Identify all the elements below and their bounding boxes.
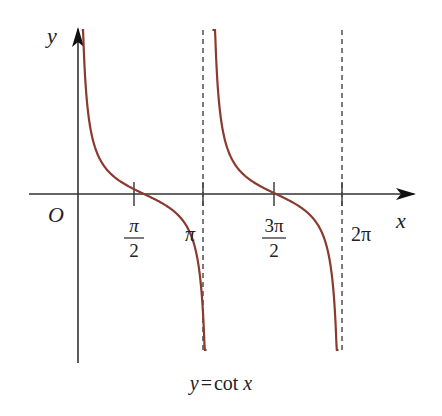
cot-curve-branch-2: [212, 30, 338, 350]
y-axis-label: y: [45, 23, 57, 48]
x-axis-label: x: [395, 208, 406, 233]
caption-x: x: [242, 372, 252, 394]
caption-func: cot: [214, 372, 239, 394]
tick-label-pi-over-2-den: 2: [129, 240, 139, 261]
caption-eq: =: [201, 372, 212, 394]
tick-label-pi-over-2-num: π: [129, 215, 139, 236]
tick-label-3pi-over-2-den: 2: [269, 240, 279, 261]
tick-label-3pi-over-2-num: 3π: [264, 215, 284, 236]
cot-graph: y x O π 2 π 3π 2 2π y=cotx: [0, 0, 442, 416]
caption: y=cotx: [188, 372, 253, 395]
cot-curve-branch-1: [82, 30, 207, 350]
tick-label-2pi: 2π: [351, 223, 371, 245]
origin-label: O: [48, 202, 64, 227]
caption-y: y: [188, 372, 199, 395]
tick-label-pi: π: [185, 223, 196, 245]
